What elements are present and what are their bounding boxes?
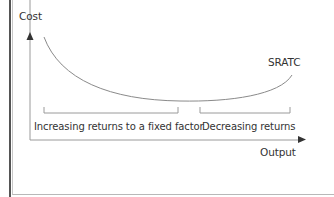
decreasing-returns-label: Decreasing returns — [202, 121, 295, 133]
decreasing-returns-bracket — [200, 107, 290, 113]
y-axis-label: Cost — [19, 10, 42, 22]
increasing-returns-bracket — [44, 107, 178, 113]
x-axis-arrow-icon — [298, 136, 306, 143]
sratc-curve — [44, 37, 292, 101]
y-axis-arrow-icon — [27, 32, 34, 40]
increasing-returns-label: Increasing returns to a fixed factor — [34, 121, 204, 133]
x-axis-label: Output — [260, 146, 296, 158]
curve-label: SRATC — [268, 56, 301, 68]
